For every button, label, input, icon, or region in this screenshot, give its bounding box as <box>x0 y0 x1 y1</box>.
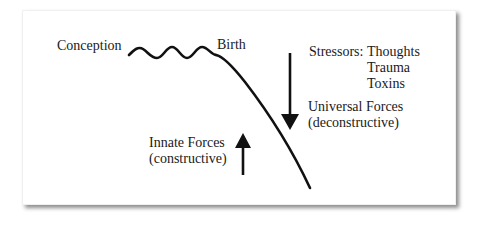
stressor-toxins: Toxins <box>367 76 405 92</box>
conception-label: Conception <box>57 38 122 54</box>
prenatal-wave-line <box>129 47 216 58</box>
stressors-title: Stressors: <box>309 44 363 60</box>
diagram-canvas <box>0 0 483 235</box>
down-arrow-icon <box>281 53 299 130</box>
birth-label: Birth <box>217 37 246 53</box>
innate-forces-label: Innate Forces <box>149 135 225 151</box>
innate-forces-note: (constructive) <box>149 151 227 167</box>
life-decline-curve <box>216 55 310 188</box>
universal-forces-label: Universal Forces <box>308 99 403 115</box>
stressor-trauma: Trauma <box>367 60 410 76</box>
up-arrow-icon <box>235 133 251 175</box>
universal-forces-note: (deconstructive) <box>308 115 399 131</box>
stressor-thoughts: Thoughts <box>367 44 420 60</box>
